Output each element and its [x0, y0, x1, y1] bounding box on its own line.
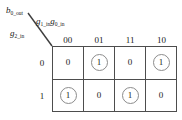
cell-value: 1: [159, 58, 164, 67]
cell-value: 0: [128, 58, 133, 67]
column-variables-label: g1_ing0_in: [36, 17, 65, 26]
cell-value: 0: [66, 58, 71, 67]
row-variable-subscript: 2_in: [15, 33, 25, 39]
row-variable-label: g2_in: [10, 29, 24, 38]
column-header-01: 01: [83, 34, 114, 46]
kmap-cell-r1c0: 1: [53, 80, 83, 112]
row-variable-base: g: [10, 28, 15, 38]
kmap-cell-r0c2: 0: [114, 47, 145, 79]
column-header-11: 11: [115, 34, 146, 46]
column-variable-1-subscript: 1_in: [41, 21, 51, 27]
karnaugh-map-figure: b0_out g1_ing0_in g2_in 00 01 11 10 0 1 …: [0, 0, 182, 120]
cell-value: 1: [128, 91, 133, 100]
column-variable-1-base: g: [36, 16, 41, 26]
column-header-row: 00 01 11 10: [52, 34, 177, 46]
row-header-column: 0 1: [34, 46, 50, 112]
table-row: 1 0 1 0: [53, 79, 176, 112]
kmap-cell-r1c1: 0: [83, 80, 114, 112]
kmap-cell-r1c3: 0: [145, 80, 176, 112]
kmap-cell-r1c2: 1: [114, 80, 145, 112]
output-variable-subscript: 0_out: [11, 10, 24, 16]
table-row: 0 1 0 1: [53, 47, 176, 79]
cell-value: 1: [66, 91, 71, 100]
column-variable-2-subscript: 0_in: [55, 21, 65, 27]
kmap-cell-r0c3: 1: [145, 47, 176, 79]
row-header-0: 0: [34, 46, 50, 79]
cell-value: 1: [97, 58, 102, 67]
output-variable-base: b: [6, 5, 11, 15]
column-header-10: 10: [146, 34, 177, 46]
output-variable-label: b0_out: [6, 6, 23, 15]
column-header-00: 00: [52, 34, 83, 46]
kmap-grid: 0 1 0 1 1 0 1: [52, 46, 177, 112]
cell-value: 0: [97, 91, 102, 100]
kmap-cell-r0c1: 1: [83, 47, 114, 79]
cell-value: 0: [159, 91, 164, 100]
kmap-cell-r0c0: 0: [53, 47, 83, 79]
row-header-1: 1: [34, 79, 50, 112]
